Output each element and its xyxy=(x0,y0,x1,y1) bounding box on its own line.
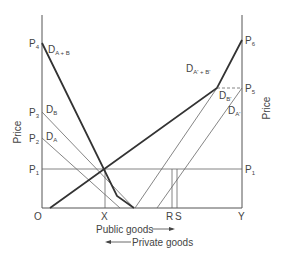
right-axis-title: Price xyxy=(261,96,272,119)
private-goods-arrowhead-icon xyxy=(105,240,111,244)
label-d-b-prime: DB' xyxy=(219,90,231,102)
private-goods-caption: Private goods xyxy=(132,237,193,248)
label-s: S xyxy=(175,211,182,222)
label-d-a-prime: DA' xyxy=(228,105,240,117)
label-p5: P5 xyxy=(245,83,256,95)
public-goods-caption: Public goods xyxy=(96,224,153,235)
label-p4: P4 xyxy=(29,38,40,50)
public-goods-arrowhead-icon xyxy=(169,227,175,231)
label-p1-left: P1 xyxy=(29,164,40,176)
label-p6: P6 xyxy=(245,35,256,47)
label-d-a-prime-plus-b-prime: DA' + B' xyxy=(186,63,210,75)
label-d-a: DA xyxy=(46,131,57,143)
aggregate-demand-private xyxy=(50,40,242,208)
label-d-b: DB xyxy=(46,104,57,116)
label-x: X xyxy=(101,211,108,222)
label-origin: O xyxy=(34,211,42,222)
public-private-goods-diagram: P4 P3 P2 P1 P6 P5 P1 DA + B DB DA DA' + … xyxy=(0,0,287,256)
label-r: R xyxy=(166,211,173,222)
demand-curve-a xyxy=(42,138,120,208)
label-p2: P2 xyxy=(29,133,40,145)
left-axis-title: Price xyxy=(12,120,23,143)
label-y: Y xyxy=(238,211,245,222)
label-p3: P3 xyxy=(29,107,40,119)
demand-curve-b xyxy=(42,112,134,208)
demand-curve-b-prime xyxy=(135,88,217,208)
label-p1-right: P1 xyxy=(245,164,256,176)
label-d-a-plus-b: DA + B xyxy=(48,44,70,56)
aggregate-demand-public xyxy=(42,43,134,208)
